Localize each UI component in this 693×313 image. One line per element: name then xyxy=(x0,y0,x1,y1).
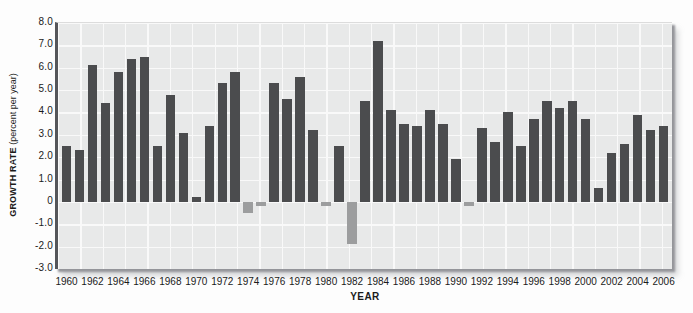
x-axis-title: YEAR xyxy=(343,291,387,302)
growth-rate-chart: GROWTH RATE (percent per year) 8.07.06.0… xyxy=(0,0,693,313)
x-axis-tick-labels: 1960196219641966196819701972197419761978… xyxy=(0,0,693,313)
x-tick-label-2006: 2006 xyxy=(644,276,684,288)
